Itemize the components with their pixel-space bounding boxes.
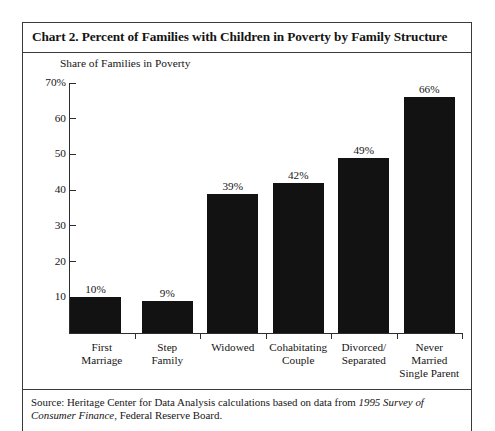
category-label-line: Divorced/ [341, 341, 386, 353]
plot-area: 70%605040302010 10%9%39%42%49%66% FirstM… [23, 23, 473, 431]
category-label-line: Separated [342, 354, 386, 366]
y-axis-tick-label: 10 [26, 291, 66, 302]
x-tick [462, 333, 463, 339]
bar [404, 97, 455, 333]
category-label-line: Family [151, 354, 183, 366]
y-axis-tick-label: 70% [26, 77, 66, 88]
category-label-line: Married [411, 354, 447, 366]
bar-value-label: 66% [399, 83, 459, 95]
y-tick [69, 154, 76, 155]
bar-value-label: 9% [137, 287, 197, 299]
category-label-line: First [91, 341, 112, 353]
y-tick [69, 190, 76, 191]
category-label-line: Never [416, 341, 443, 353]
bar [207, 194, 258, 333]
bar [338, 158, 389, 333]
x-tick [266, 333, 267, 339]
x-tick [397, 333, 398, 339]
frame-left-edge [22, 389, 23, 431]
bar [70, 297, 121, 333]
category-label-line: Marriage [81, 354, 122, 366]
category-label-line: Single Parent [399, 367, 459, 379]
source-prefix: Source: Heritage Center for Data Analysi… [31, 396, 359, 408]
y-axis-tick-label: 40 [26, 184, 66, 195]
y-tick [69, 225, 76, 226]
bar-value-label: 10% [66, 283, 126, 295]
bar-value-label: 39% [203, 180, 263, 192]
source-suffix: , Federal Reserve Board. [114, 409, 222, 421]
y-axis-tick-label: 20 [26, 256, 66, 267]
category-label-line: Widowed [211, 341, 254, 353]
category-label-line: Couple [282, 354, 314, 366]
y-tick [69, 261, 76, 262]
y-axis-tick-label: 50 [26, 148, 66, 159]
y-tick [69, 83, 76, 84]
footer-divider [22, 389, 472, 390]
y-tick [69, 118, 76, 119]
bar-value-label: 49% [334, 144, 394, 156]
bar [142, 301, 193, 333]
bar [273, 183, 324, 333]
y-axis-line [69, 83, 70, 333]
bar-value-label: 42% [268, 169, 328, 181]
y-axis-tick-label: 60 [26, 113, 66, 124]
x-tick [135, 333, 136, 339]
x-axis-category-label: NeverMarriedSingle Parent [389, 341, 469, 381]
source-note: Source: Heritage Center for Data Analysi… [31, 396, 467, 423]
category-label-line: Step [157, 341, 177, 353]
frame-right-edge [471, 389, 472, 431]
category-label-line: Cohabitating [269, 341, 327, 353]
chart-card: Chart 2. Percent of Families with Childr… [22, 22, 472, 431]
y-axis-tick-label: 30 [26, 220, 66, 231]
x-tick [200, 333, 201, 339]
x-tick [331, 333, 332, 339]
